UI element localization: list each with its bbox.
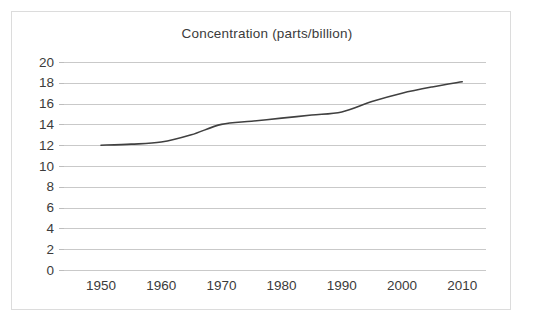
y-axis-tick-labels: 02468101214161820: [39, 55, 55, 278]
x-tick-label-1960: 1960: [146, 278, 176, 293]
y-tick-label-6: 6: [46, 200, 54, 215]
x-axis-tick-labels: 1950196019701980199020002010: [86, 278, 477, 293]
y-tick-label-16: 16: [39, 96, 54, 111]
x-tick-label-1950: 1950: [86, 278, 116, 293]
line-chart-plot: 02468101214161820 1950196019701980199020…: [0, 0, 534, 329]
y-tick-label-14: 14: [39, 117, 55, 132]
y-tick-label-2: 2: [46, 242, 54, 257]
series-line-concentration: [101, 82, 462, 145]
x-tick-label-2000: 2000: [387, 278, 417, 293]
y-tick-label-4: 4: [46, 221, 54, 236]
y-tick-label-0: 0: [46, 263, 54, 278]
y-tick-label-12: 12: [39, 138, 54, 153]
y-tick-label-18: 18: [39, 75, 54, 90]
y-tick-label-8: 8: [46, 179, 54, 194]
x-tick-label-2010: 2010: [447, 278, 477, 293]
gridlines-group: [64, 63, 486, 271]
y-tick-label-10: 10: [39, 159, 54, 174]
y-tick-label-20: 20: [39, 55, 54, 70]
x-tick-label-1990: 1990: [327, 278, 357, 293]
axis-tickmarks-group: [59, 63, 64, 271]
x-tick-label-1980: 1980: [267, 278, 297, 293]
data-series-group: [101, 82, 462, 145]
chart-card: Concentration (parts/billion) 0246810121…: [0, 0, 534, 329]
x-tick-label-1970: 1970: [206, 278, 236, 293]
